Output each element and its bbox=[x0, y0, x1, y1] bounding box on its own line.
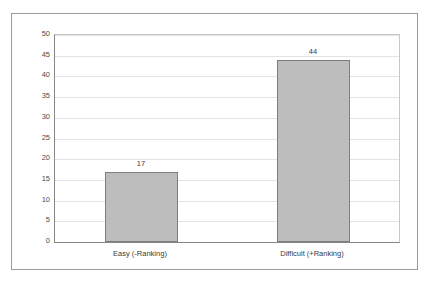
y-axis-tick-labels: 05101520253035404550 bbox=[12, 34, 50, 243]
y-axis-tick-label: 20 bbox=[16, 154, 50, 162]
y-axis-tick-label: 10 bbox=[16, 196, 50, 204]
x-axis-category-labels: Easy (-Ranking)Difficult (+Ranking) bbox=[54, 250, 400, 266]
gridline bbox=[55, 35, 399, 36]
y-axis-tick-label: 45 bbox=[16, 51, 50, 59]
x-axis-category-label: Easy (-Ranking) bbox=[113, 250, 167, 258]
bar bbox=[277, 60, 350, 242]
bar bbox=[105, 172, 178, 242]
chart-frame: 05101520253035404550 1744 Easy (-Ranking… bbox=[11, 13, 418, 270]
y-axis-tick-label: 0 bbox=[16, 237, 50, 245]
y-axis-tick-label: 40 bbox=[16, 72, 50, 80]
x-axis-category-label: Difficult (+Ranking) bbox=[280, 250, 343, 258]
y-axis-tick-label: 25 bbox=[16, 134, 50, 142]
gridline bbox=[55, 56, 399, 57]
y-axis-tick-label: 15 bbox=[16, 175, 50, 183]
y-axis-tick-label: 35 bbox=[16, 92, 50, 100]
y-axis-tick-label: 50 bbox=[16, 30, 50, 38]
y-axis-tick-label: 5 bbox=[16, 217, 50, 225]
plot-area: 1744 bbox=[54, 34, 400, 243]
y-axis-tick-label: 30 bbox=[16, 113, 50, 121]
bar-value-label: 17 bbox=[137, 160, 145, 168]
bar-value-label: 44 bbox=[309, 48, 317, 56]
